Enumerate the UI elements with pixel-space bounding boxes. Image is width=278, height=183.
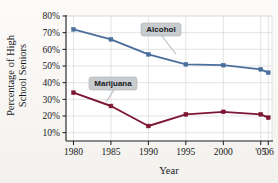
data-point-marker <box>221 63 225 67</box>
y-tick-label: 20% <box>43 111 61 121</box>
data-point-marker <box>259 112 263 116</box>
x-tick-label: 1995 <box>176 147 195 157</box>
y-axis-tick-labels: 10%20%30%40%50%60%70%80% <box>43 11 61 138</box>
callout-label-marijuana: Marijuana <box>94 79 132 88</box>
chart-figure: Percentage of High School Seniors 10%20%… <box>0 0 278 183</box>
x-tick-label: 1985 <box>101 147 120 157</box>
data-point-marker <box>109 37 113 41</box>
data-point-marker <box>109 104 113 108</box>
y-tick-label: 80% <box>43 11 61 21</box>
x-axis-ticks <box>73 141 268 145</box>
callout-label-alcohol: Alcohol <box>146 25 175 34</box>
data-point-marker <box>266 71 270 75</box>
y-tick-label: 60% <box>43 45 61 55</box>
data-point-marker <box>266 116 270 120</box>
data-point-marker <box>72 91 76 95</box>
y-tick-label: 40% <box>43 78 61 88</box>
x-axis-tick-labels: 19801985199019952000'05'06 <box>64 147 274 157</box>
y-tick-label: 30% <box>43 95 61 105</box>
data-point-marker <box>184 62 188 66</box>
y-tick-label: 10% <box>43 128 61 138</box>
x-tick-label: 1980 <box>64 147 83 157</box>
data-point-marker <box>147 52 151 56</box>
x-tick-label: 1990 <box>139 147 158 157</box>
y-tick-label: 50% <box>43 61 61 71</box>
x-tick-label: '06 <box>263 147 274 157</box>
data-point-marker <box>221 110 225 114</box>
data-point-marker <box>72 27 76 31</box>
x-axis-title: Year <box>159 165 179 176</box>
data-point-marker <box>259 67 263 71</box>
line-chart-plot: 10%20%30%40%50%60%70%80% 198019851990199… <box>0 0 278 183</box>
data-point-marker <box>147 124 151 128</box>
data-point-marker <box>184 112 188 116</box>
x-tick-label: 2000 <box>214 147 233 157</box>
y-tick-label: 70% <box>43 28 61 38</box>
